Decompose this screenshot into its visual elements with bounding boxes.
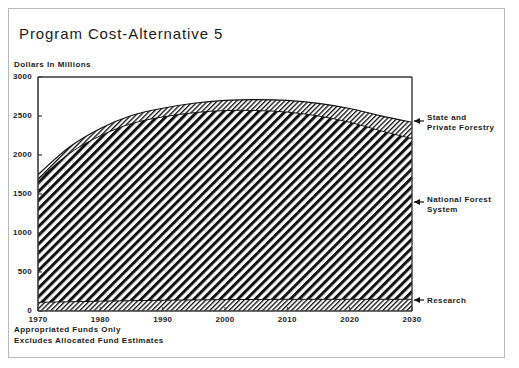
y-tick-label: 1500 xyxy=(6,189,32,198)
y-tick-label: 2500 xyxy=(6,111,32,120)
callout-national-forest-system: National Forest System xyxy=(427,195,491,214)
y-tick-label: 0 xyxy=(6,306,32,315)
x-tick-label: 2020 xyxy=(333,315,367,324)
callout-arrows xyxy=(414,118,424,303)
y-tick-label: 500 xyxy=(6,267,32,276)
chart-page: Program Cost-Alternative 5 Dollars In Mi… xyxy=(0,0,519,368)
x-tick-label: 1990 xyxy=(146,315,180,324)
footnote-excludes-allocated: Excludes Allocated Fund Estimates xyxy=(14,336,164,345)
footnote-appropriated-funds: Appropriated Funds Only xyxy=(14,325,121,334)
x-tick-label: 1980 xyxy=(83,315,117,324)
stacked-area-chart xyxy=(0,0,519,368)
area-bands xyxy=(38,100,412,311)
y-tick-label: 2000 xyxy=(6,150,32,159)
callout-research: Research xyxy=(427,296,466,306)
x-tick-label: 2010 xyxy=(270,315,304,324)
arrow-head-research-icon xyxy=(414,297,420,303)
arrow-head-spf-icon xyxy=(414,118,420,124)
x-tick-label: 2030 xyxy=(395,315,429,324)
x-tick-label: 2000 xyxy=(208,315,242,324)
y-tick-label: 1000 xyxy=(6,228,32,237)
y-tick-label: 3000 xyxy=(6,72,32,81)
arrow-head-nfs-icon xyxy=(414,199,420,205)
x-tick-label: 1970 xyxy=(21,315,55,324)
callout-state-private-forestry: State and Private Forestry xyxy=(427,113,494,132)
